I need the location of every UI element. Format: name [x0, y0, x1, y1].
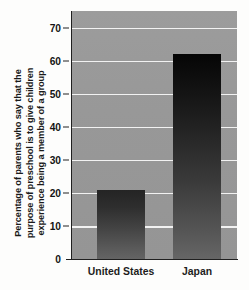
y-axis-tick-label: 30: [50, 154, 61, 165]
y-axis-tick-label: 40: [50, 121, 61, 132]
y-axis-tick-label: 20: [50, 187, 61, 198]
y-axis-tick-mark: [63, 225, 69, 226]
y-axis-tick-label: 10: [50, 220, 61, 231]
y-axis-tick-labels: 010203040506070: [0, 0, 72, 290]
y-axis-tick-label: 0: [55, 254, 61, 265]
x-axis-tick-labels: United StatesJapan: [72, 266, 237, 286]
y-axis-tick-mark: [63, 192, 69, 193]
x-axis-line: [66, 259, 238, 260]
gridline: [72, 28, 237, 30]
y-axis-tick-mark: [63, 27, 69, 28]
y-axis-tick-mark: [63, 159, 69, 160]
y-axis-tick-mark: [63, 126, 69, 127]
y-axis-tick-label: 50: [50, 88, 61, 99]
x-axis-tick-label: United States: [88, 266, 154, 277]
bar-chart: Percentage of parents who say that the p…: [0, 0, 249, 290]
bar-japan: [173, 54, 221, 259]
y-axis-tick-label: 70: [50, 22, 61, 33]
y-axis-tick-mark: [63, 93, 69, 94]
plot-area: [72, 11, 237, 259]
x-axis-tick-label: Japan: [182, 266, 212, 277]
bar-united-states: [97, 190, 145, 259]
y-axis-tick-mark: [63, 60, 69, 61]
y-axis-tick-label: 60: [50, 55, 61, 66]
